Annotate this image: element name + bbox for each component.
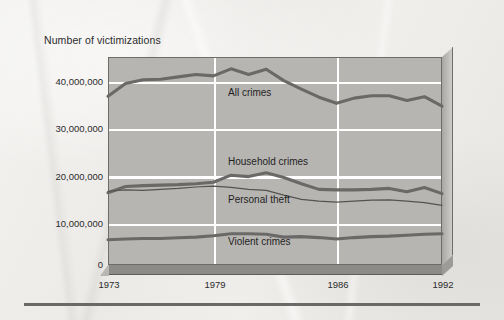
y-tick-40m: 40,000,000 xyxy=(55,76,103,87)
y-tick-0: 0 xyxy=(98,259,103,270)
series-label-violent-crimes: Violent crimes xyxy=(228,236,291,247)
series-label-household-crimes: Household crimes xyxy=(228,156,308,167)
series-line-all-crimes xyxy=(108,69,442,106)
y-tick-20m: 20,000,000 xyxy=(55,171,103,182)
scanned-page: Number of victimizations Al xyxy=(0,0,504,320)
y-tick-30m: 30,000,000 xyxy=(55,123,103,134)
plot-3d-side-panel xyxy=(442,47,453,265)
x-tick-1979: 1979 xyxy=(200,279,230,290)
x-tick-1986: 1986 xyxy=(323,279,353,290)
series-label-personal-theft: Personal theft xyxy=(228,194,290,205)
y-axis-ticks: 40,000,000 30,000,000 20,000,000 10,000,… xyxy=(30,0,103,320)
series-line-household-crimes xyxy=(108,173,442,194)
plot-3d-base xyxy=(108,265,442,275)
x-tick-1973: 1973 xyxy=(94,279,124,290)
y-tick-10m: 10,000,000 xyxy=(55,218,103,229)
line-chart-figure: Number of victimizations Al xyxy=(0,0,504,320)
series-label-all-crimes: All crimes xyxy=(228,87,271,98)
x-tick-1992: 1992 xyxy=(428,279,458,290)
bottom-rule xyxy=(24,303,480,306)
